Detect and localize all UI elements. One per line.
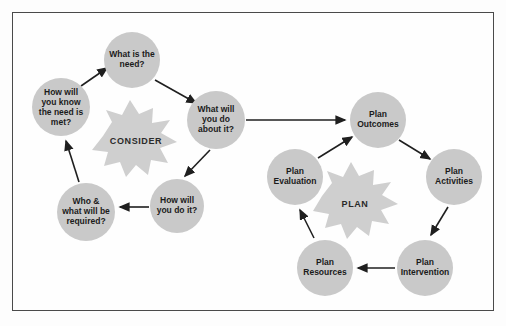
diagram-graphic: CONSIDER PLAN What is the (0, 0, 506, 326)
node-label-line: Activities (435, 176, 473, 186)
arrow-whatwill-to-howwill (185, 150, 210, 176)
node-plan-outcomes[interactable]: Plan Outcomes (350, 92, 406, 148)
plan-burst-label: PLAN (342, 199, 369, 209)
node-label-line: Plan (369, 109, 387, 119)
arrow-know-to-need (81, 68, 107, 86)
node-how-will-you-know-the-need-is-met[interactable]: How will you know the need is met? (32, 78, 90, 136)
node-plan-intervention[interactable]: Plan Intervention (397, 240, 453, 296)
node-label-line: Plan (416, 257, 434, 267)
plan-burst: PLAN (313, 162, 398, 239)
node-label-line: about it? (198, 124, 234, 134)
arrow-evaluation-to-outcomes (318, 137, 352, 158)
node-label-line: met? (51, 117, 71, 127)
node-label-line: you know (41, 97, 81, 107)
node-what-is-the-need[interactable]: What is the need? (104, 32, 160, 88)
node-label-line: Outcomes (357, 119, 399, 129)
arrow-activities-to-intervention (431, 207, 448, 235)
node-label-line: How will (160, 195, 194, 205)
node-label-line: Who & (73, 196, 100, 206)
node-plan-activities[interactable]: Plan Activities (426, 149, 482, 205)
node-label-line: Plan (286, 166, 304, 176)
consider-burst-label: CONSIDER (110, 136, 162, 146)
node-label-line: need? (119, 59, 144, 69)
diagram-canvas: CONSIDER PLAN What is the (0, 0, 506, 326)
arrow-need-to-whatwill (155, 80, 196, 103)
node-plan-evaluation[interactable]: Plan Evaluation (267, 149, 323, 205)
arrow-who-to-know (66, 141, 79, 182)
node-label-line: required? (66, 216, 105, 226)
arrow-outcomes-to-activities (399, 140, 430, 159)
node-who-and-what-will-be-required[interactable]: Who & what will be required? (57, 183, 115, 241)
arrow-resources-to-evaluation (300, 210, 314, 238)
node-label-line: Intervention (401, 267, 450, 277)
node-label-line: the need is (39, 107, 84, 117)
node-label-line: What is the (109, 49, 155, 59)
node-label-line: What will (198, 104, 235, 114)
node-how-will-you-do-it[interactable]: How will you do it? (150, 179, 204, 233)
node-label-line: Evaluation (274, 176, 317, 186)
node-label-line: Plan (445, 166, 463, 176)
node-what-will-you-do-about-it[interactable]: What will you do about it? (187, 91, 245, 149)
node-label-line: you do it? (157, 205, 198, 215)
node-label-line: How will (44, 87, 78, 97)
node-label-line: Resources (303, 267, 347, 277)
node-label-line: what will be (61, 206, 110, 216)
node-label-line: Plan (316, 257, 334, 267)
node-plan-resources[interactable]: Plan Resources (297, 240, 353, 296)
node-label-line: you do (202, 114, 230, 124)
consider-burst: CONSIDER (92, 100, 177, 177)
